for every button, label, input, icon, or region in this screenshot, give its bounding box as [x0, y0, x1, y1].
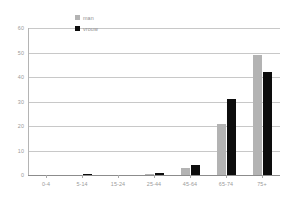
bar-group [70, 28, 94, 175]
bar-group [250, 28, 274, 175]
y-tick-label: 60 [2, 25, 24, 31]
x-tick-mark [190, 175, 191, 178]
x-tick-mark [82, 175, 83, 178]
legend-item: man [75, 13, 98, 22]
y-tick-label: 10 [2, 148, 24, 154]
x-tick-mark [46, 175, 47, 178]
x-tick-mark [118, 175, 119, 178]
x-tick-label: 45-64 [170, 181, 210, 188]
x-tick-mark [262, 175, 263, 178]
legend-label: man [83, 15, 94, 21]
bar-chart: 0102030405060 0-45-1415-2425-4445-6465-7… [0, 0, 286, 206]
legend-item: vrouw [75, 24, 98, 33]
x-tick-label: 25-44 [134, 181, 174, 188]
x-tick-label: 15-24 [98, 181, 138, 188]
bar-group [106, 28, 130, 175]
x-tick-mark [154, 175, 155, 178]
y-tick-label: 0 [2, 172, 24, 178]
bar-group [178, 28, 202, 175]
x-tick-label: 65-74 [206, 181, 246, 188]
bar-man [181, 168, 190, 175]
y-tick-label: 40 [2, 74, 24, 80]
bar-vrouw [263, 72, 272, 175]
x-tick-label: 75+ [242, 181, 282, 188]
plot-area [28, 28, 280, 175]
legend: manvrouw [75, 13, 98, 35]
x-tick-label: 0-4 [26, 181, 66, 188]
bar-man [217, 124, 226, 175]
legend-label: vrouw [83, 26, 98, 32]
y-tick-label: 20 [2, 123, 24, 129]
bar-group [34, 28, 58, 175]
bar-man [253, 55, 262, 175]
bar-vrouw [227, 99, 236, 175]
bar-group [214, 28, 238, 175]
y-axis-line [28, 28, 29, 176]
y-tick-label: 30 [2, 99, 24, 105]
legend-swatch-vrouw-icon [75, 26, 80, 31]
bar-vrouw [191, 165, 200, 175]
bar-group [142, 28, 166, 175]
legend-swatch-man-icon [75, 15, 80, 20]
x-tick-mark [226, 175, 227, 178]
x-tick-label: 5-14 [62, 181, 102, 188]
y-tick-label: 50 [2, 50, 24, 56]
